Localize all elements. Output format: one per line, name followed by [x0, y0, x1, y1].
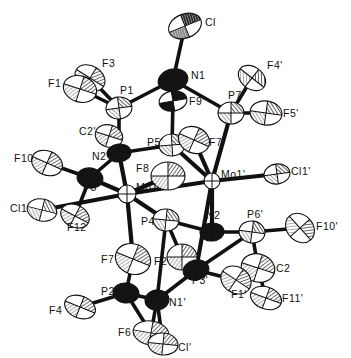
atom-label-P1: P1	[120, 85, 134, 96]
atom-label-Mo1: Mo1	[136, 182, 158, 193]
ellipsoid-F10p	[280, 207, 321, 248]
ellipsoid-F5p	[248, 99, 283, 127]
ellipsoid-F4	[61, 291, 99, 323]
ellipsoid-F11p	[247, 282, 285, 314]
atom-label-F12: F12	[67, 222, 87, 233]
atom-label-F1p: F1'	[231, 289, 247, 300]
atom-label-P8: P8	[83, 182, 97, 193]
atom-label-P7p: P7'	[228, 90, 244, 101]
ellipsoid-Cl	[165, 9, 206, 44]
ellipsoid-Cl1p	[263, 162, 292, 185]
atom-label-F10p: F10'	[316, 221, 338, 232]
atom-label-F9p: F9'	[189, 96, 205, 107]
atom-label-C2p: C2'	[79, 126, 96, 137]
ellipsoid-F9p	[157, 89, 188, 114]
atom-label-F11p: F11'	[282, 293, 303, 304]
atom-label-P2: P2	[101, 286, 115, 297]
atom-label-N2p: N2'	[92, 151, 109, 162]
atom-label-F8: F8	[136, 163, 149, 174]
ortep-crystal-structure-figure: ClN1F9'F3F1P1F4'P7'F5'C2'N2'P5'F7F10P8F8…	[0, 0, 351, 358]
atom-label-F4p: F4'	[267, 60, 283, 71]
atom-label-Cl1: Cl1	[10, 203, 27, 214]
ellipsoid-Cl1	[25, 196, 59, 225]
atom-label-Mo1p: Mo1'	[221, 169, 245, 180]
atom-label-F10: F10	[14, 153, 34, 164]
atom-label-F7c: F7	[209, 137, 222, 148]
ellipsoid-Mo1p	[204, 173, 220, 189]
atom-label-F1: F1	[48, 78, 61, 89]
ellipsoid-N1	[156, 66, 190, 95]
ellipsoid-P2	[112, 282, 140, 305]
atom-label-C2: C2	[276, 263, 290, 274]
atom-label-Clp: Cl'	[178, 342, 191, 353]
ellipsoid-F7b	[111, 238, 156, 279]
atom-label-Cl1p: Cl1'	[291, 166, 311, 177]
atom-label-P5p: P5'	[147, 137, 163, 148]
atom-label-P3p: P3'	[192, 275, 208, 286]
atom-label-F6: F6	[118, 327, 131, 338]
atom-label-F7b: F7	[101, 254, 114, 265]
atom-label-F4: F4	[49, 305, 62, 316]
atom-label-P6p: P6'	[247, 209, 263, 220]
ellipsoid-Mo1	[118, 185, 136, 203]
atom-label-P4: P4	[141, 216, 155, 227]
atom-label-F3: F3	[102, 58, 115, 69]
atom-label-F2: F2	[154, 256, 167, 267]
atom-label-N1p: N1'	[169, 297, 186, 308]
atom-label-N1: N1	[191, 70, 205, 81]
atom-label-F5p: F5'	[283, 108, 299, 119]
ellipsoid-P7p	[218, 102, 244, 124]
atom-label-N2: N2	[206, 210, 220, 221]
atom-label-Cl: Cl	[205, 17, 216, 28]
